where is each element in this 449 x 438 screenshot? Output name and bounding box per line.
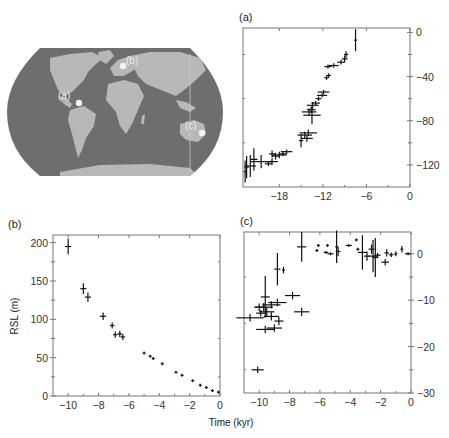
data-series [65,239,220,394]
y-tick-label: 200 [30,237,48,249]
plot-frame [244,232,411,393]
x-tick-label: −8 [93,399,105,411]
y-tick-label: −30 [417,387,435,399]
x-tick-label: −6 [360,190,372,202]
x-tick-label: −10 [250,396,268,408]
x-tick-label: −18 [270,190,288,202]
chart-panel-a: (a)−18−12−600−40−80−120 [239,11,440,202]
y-tick-label: −10 [417,294,435,306]
chart-panel-b: (b)−10−8−6−4−20050100150200 [8,218,223,411]
y-tick-label: 0 [42,390,48,402]
x-tick-label: 0 [407,190,413,202]
y-tick-label: −40 [416,71,434,83]
figure: (a)(b)(c) (a)−18−12−600−40−80−120 (b)−10… [0,0,449,438]
x-tick-label: −4 [344,396,356,408]
y-tick-label: −80 [416,115,434,127]
y-tick-label: 150 [30,275,48,287]
plot-frame [53,235,220,396]
y-tick-label: 0 [416,26,422,38]
x-tick-label: −4 [153,399,165,411]
site-label: (a) [58,90,70,101]
data-series [236,231,411,373]
x-tick-label: 0 [217,399,223,411]
panel-title-c: (c) [240,215,253,227]
site-marker [199,130,205,136]
site-marker [76,100,82,106]
x-tick-label: −2 [375,396,387,408]
panel-title-b: (b) [8,218,21,230]
y-tick-label: −120 [416,159,440,171]
world-map: (a)(b)(c) [7,48,223,178]
panel-title-a: (a) [239,11,252,23]
x-tick-label: −6 [314,396,326,408]
site-label: (b) [126,55,138,66]
y-axis-title-b: RSL (m) [9,298,20,335]
y-tick-label: −20 [417,341,435,353]
site-label: (c) [185,120,197,131]
x-tick-label: −6 [123,399,135,411]
x-axis-title: Time (kyr) [209,417,254,428]
y-tick-label: 0 [417,248,423,260]
data-series [244,29,357,182]
chart-panel-c: (c)−10−8−6−4−200−10−20−30 [236,215,435,408]
y-tick-label: 100 [30,313,48,325]
x-tick-label: 0 [408,396,414,408]
x-tick-label: −10 [59,399,77,411]
x-tick-label: −12 [314,190,332,202]
x-tick-label: −2 [184,399,196,411]
x-tick-label: −8 [284,396,296,408]
y-tick-label: 50 [36,352,48,364]
